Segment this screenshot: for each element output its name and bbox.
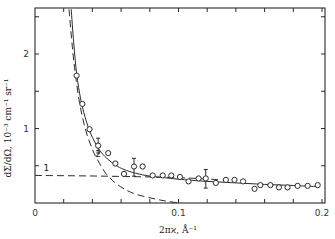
data-point — [80, 101, 85, 106]
axis-tick-labels: 00.10.212 — [23, 49, 329, 218]
curve-label-1: 1 — [44, 163, 50, 173]
data-point — [276, 185, 281, 190]
data-point — [252, 186, 257, 191]
data-point — [223, 177, 228, 182]
data-point — [87, 127, 92, 132]
x-axis-label: 2πϰ, Å⁻¹ — [159, 224, 197, 235]
data-point — [268, 183, 273, 188]
data-point — [121, 171, 126, 176]
data-point — [131, 164, 136, 169]
plot-frame — [35, 8, 325, 203]
curve-fit — [71, 9, 318, 186]
data-point — [196, 176, 201, 181]
plot-border — [35, 8, 325, 203]
data-point — [186, 179, 191, 184]
y-tick-label: 2 — [23, 49, 29, 59]
data-point — [106, 150, 111, 155]
data-point — [240, 179, 245, 184]
axis-ticks — [35, 8, 325, 203]
data-point — [232, 177, 237, 182]
x-tick-label: 0.1 — [171, 208, 185, 218]
fit-curves — [35, 9, 318, 203]
y-axis-label: dΣ/dΩ, 10⁻³ cm⁻¹ sr⁻¹ — [3, 79, 13, 178]
data-point — [140, 164, 145, 169]
data-point — [285, 185, 290, 190]
data-point — [203, 176, 208, 181]
curve-annotations: 12 — [44, 149, 101, 173]
data-point — [160, 173, 165, 178]
data-point — [150, 173, 155, 178]
x-tick-label: 0.2 — [315, 208, 329, 218]
data-point — [113, 161, 118, 166]
data-point — [74, 73, 79, 78]
data-point — [213, 180, 218, 185]
data-points — [74, 73, 320, 191]
y-tick-label: 1 — [23, 124, 29, 134]
data-point — [96, 143, 101, 148]
data-point — [177, 174, 182, 179]
data-point — [315, 183, 320, 188]
curve-label-2: 2 — [95, 149, 101, 159]
data-point — [258, 183, 263, 188]
data-point — [305, 183, 310, 188]
data-point — [169, 173, 174, 178]
chart-figure: 00.10.212 12 2πϰ, Å⁻¹ dΣ/dΩ, 10⁻³ cm⁻¹ s… — [0, 0, 335, 239]
curve-1 — [35, 175, 222, 180]
data-point — [295, 183, 300, 188]
x-tick-label: 0 — [32, 208, 38, 218]
